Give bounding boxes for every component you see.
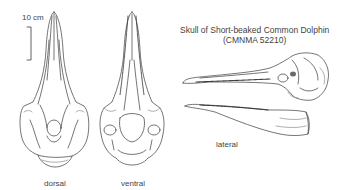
mandible-drawing — [185, 104, 309, 135]
figure-title: Skull of Short-beaked Common Dolphin (CM… — [180, 26, 329, 46]
ventral-skull-drawing — [100, 12, 164, 165]
view-label-dorsal: dorsal — [44, 180, 66, 188]
skull-illustration-figure: 10 cm Skull of Short-beaked Common Dolph… — [0, 0, 347, 190]
scale-bar-icon — [27, 27, 31, 60]
scale-bar-label: 10 cm — [22, 14, 44, 22]
view-label-lateral: lateral — [216, 141, 238, 149]
dorsal-skull-drawing — [20, 12, 89, 167]
lateral-skull-drawing — [183, 53, 329, 100]
view-label-ventral: ventral — [121, 180, 145, 188]
figure-title-line2: (CMNMA 52210) — [180, 36, 329, 46]
